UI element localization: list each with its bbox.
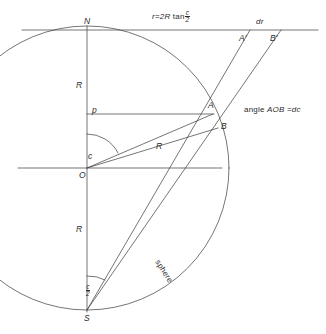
equation-projection-radius: r=2R tanc2	[152, 10, 190, 24]
label-point-a-prime: A'	[239, 33, 247, 43]
label-dr: dr	[256, 17, 264, 26]
radius-oa-line	[87, 114, 213, 168]
label-foot-p: p	[92, 105, 97, 115]
angle-half-c-arc	[87, 276, 105, 280]
label-centre-o: O	[79, 170, 86, 180]
label-radius-upper: R	[76, 80, 82, 90]
label-point-a: A	[208, 100, 214, 110]
label-radius-diagonal: R	[156, 141, 162, 151]
label-half-angle-c-over-2: c 2	[85, 284, 90, 298]
radius-ob-line	[87, 128, 218, 168]
note-prefix: angle	[244, 105, 265, 114]
label-point-b: B	[221, 121, 227, 131]
label-radius-lower: R	[76, 224, 82, 234]
note-angle-name: AOB	[267, 105, 285, 114]
ray-s-to-aprime-line	[87, 30, 250, 310]
diagram-canvas: N S O A B A' B' p R R R c c 2 r=2R tanc2…	[0, 0, 326, 334]
half-angle-fraction: c 2	[86, 284, 91, 298]
equation-arg-denominator: 2	[185, 17, 190, 24]
equation-function: tan	[173, 12, 185, 21]
half-angle-denominator: 2	[86, 291, 91, 298]
geometry-svg	[0, 0, 326, 334]
label-angle-c: c	[88, 151, 92, 161]
label-south-pole: S	[84, 313, 90, 323]
note-value: dc	[292, 105, 301, 114]
equation-arg-fraction: c2	[185, 10, 190, 24]
note-angle-aob: angle AOB =dc	[244, 105, 301, 114]
label-point-b-prime: B'	[270, 33, 278, 43]
ray-s-to-bprime-line	[87, 30, 281, 310]
equation-coefficient: 2R	[160, 12, 171, 21]
label-north-pole: N	[84, 16, 90, 26]
